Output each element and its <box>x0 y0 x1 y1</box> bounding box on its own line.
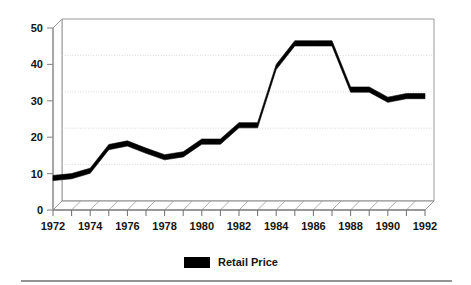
x-tick-label-1986: 1986 <box>301 220 325 232</box>
x-tick-label-1978: 1978 <box>152 220 176 232</box>
plot-3d-walls <box>53 19 434 210</box>
y-tick-label-50: 50 <box>31 22 43 34</box>
x-tick-marks <box>53 210 425 216</box>
y-tick-label-30: 30 <box>31 95 43 107</box>
legend-swatch-retail-price <box>184 257 210 268</box>
x-tick-label-1976: 1976 <box>115 220 139 232</box>
back-wall <box>62 19 434 201</box>
chart-figure: 0 10 20 30 40 50 <box>0 0 471 285</box>
x-tick-labels: 1972 1974 1976 1978 1980 1982 1984 1986 … <box>41 220 437 232</box>
x-tick-label-1974: 1974 <box>78 220 103 232</box>
x-axis <box>53 210 425 216</box>
x-tick-label-1992: 1992 <box>413 220 437 232</box>
x-tick-label-1984: 1984 <box>264 220 289 232</box>
x-tick-label-1988: 1988 <box>338 220 362 232</box>
y-tick-label-10: 10 <box>31 168 43 180</box>
legend-label-retail-price: Retail Price <box>218 256 278 268</box>
y-tick-label-40: 40 <box>31 58 43 70</box>
x-tick-label-1980: 1980 <box>190 220 214 232</box>
y-tick-label-20: 20 <box>31 131 43 143</box>
x-tick-label-1972: 1972 <box>41 220 65 232</box>
x-tick-label-1982: 1982 <box>227 220 251 232</box>
plot-floor <box>53 201 434 210</box>
x-tick-label-1990: 1990 <box>376 220 400 232</box>
retail-price-line-chart: 0 10 20 30 40 50 <box>0 0 471 285</box>
chart-legend: Retail Price <box>184 256 278 268</box>
y-tick-label-0: 0 <box>37 204 43 216</box>
left-wall <box>53 19 62 210</box>
